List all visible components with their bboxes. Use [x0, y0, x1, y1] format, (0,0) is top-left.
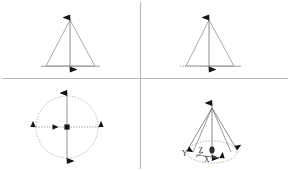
base-centre-point	[209, 147, 214, 154]
triangle-outline	[46, 20, 95, 66]
panel-top-left	[41, 18, 100, 70]
panel-bottom-left	[33, 93, 101, 161]
axis-label-y: Y	[182, 149, 188, 158]
centre-point	[64, 124, 69, 129]
inner-arrowhead	[53, 124, 59, 130]
panel-bottom-right: Y Z X	[182, 103, 237, 164]
axis-y-line	[188, 108, 212, 149]
cone-slant-right	[212, 108, 231, 152]
triangle-outline	[186, 20, 234, 66]
quadrant-dividers	[2, 2, 288, 169]
figure-svg: Y Z X	[0, 0, 290, 171]
axis-label-x: X	[204, 155, 210, 164]
axis-label-z: Z	[199, 146, 204, 155]
figure-canvas: Y Z X	[0, 0, 290, 171]
panel-top-right	[180, 18, 241, 70]
